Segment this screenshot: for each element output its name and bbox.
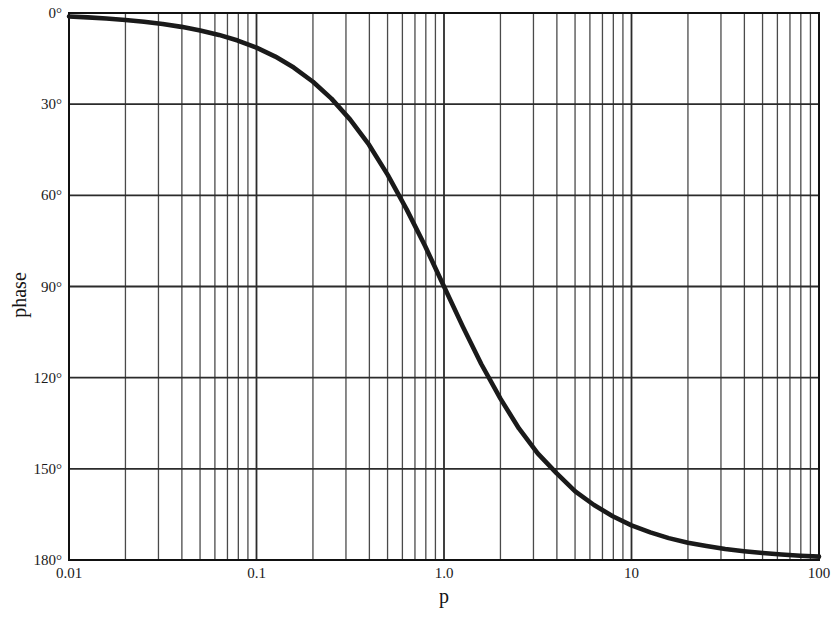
y-tick-label: 120° — [34, 370, 63, 386]
figure-container: 0.010.11.010100 0°30°60°90°120°150°180° … — [0, 0, 834, 630]
phase-bode-plot: 0.010.11.010100 0°30°60°90°120°150°180° … — [0, 0, 834, 630]
y-tick-label: 0° — [49, 5, 63, 21]
y-tick-label: 30° — [41, 96, 62, 112]
y-tick-label: 180° — [34, 552, 63, 568]
x-tick-label: 0.1 — [247, 565, 266, 581]
y-axis-title: phase — [8, 272, 31, 318]
x-axis-title: p — [439, 585, 449, 608]
y-tick-label: 60° — [41, 187, 62, 203]
x-tick-label: 1.0 — [435, 565, 454, 581]
y-tick-label: 90° — [41, 279, 62, 295]
x-tick-label: 10 — [624, 565, 639, 581]
x-tick-label: 100 — [808, 565, 831, 581]
y-tick-label: 150° — [34, 461, 63, 477]
